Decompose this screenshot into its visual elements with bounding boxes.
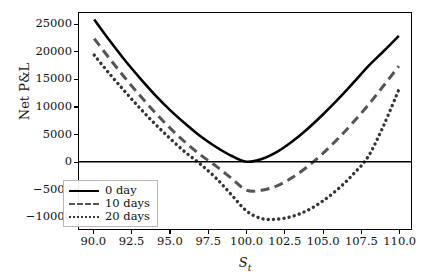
legend-label-0-day: 0 day (105, 185, 137, 197)
x-tick-mark (361, 230, 362, 234)
legend-label-20-days: 20 days (105, 211, 150, 223)
x-tick-mark (131, 230, 132, 234)
x-tick-label: 95.0 (157, 236, 183, 248)
y-tick-label: 15000 (35, 73, 72, 85)
y-tick-label: 0 (65, 156, 72, 168)
x-tick-mark (169, 230, 170, 234)
x-axis-label: St (78, 255, 412, 273)
legend-line-dashed-icon (69, 199, 99, 209)
x-tick-label: 90.0 (81, 236, 107, 248)
x-tick-label: 102.5 (268, 236, 301, 248)
x-tick-mark (399, 230, 400, 234)
x-tick-mark (284, 230, 285, 234)
y-axis-label: Net P&L (17, 50, 32, 134)
y-tick-label: 5000 (43, 129, 72, 141)
legend-line-dotted-icon (69, 212, 99, 222)
x-tick-label: 97.5 (195, 236, 221, 248)
x-tick-label: 92.5 (119, 236, 145, 248)
net-pl-payoff-chart: Net P&L 2500020000150001000050000−5000−1… (0, 0, 425, 278)
legend: 0 day 10 days 20 days (63, 180, 158, 227)
x-tick-label: 110.0 (383, 236, 416, 248)
x-axis-label-subscript: t (248, 263, 252, 273)
x-tick-mark (93, 230, 94, 234)
x-tick-mark (208, 230, 209, 234)
series-line-10-days (94, 39, 399, 192)
series-line-0-day (94, 20, 399, 162)
legend-line-solid-icon (69, 186, 99, 196)
y-tick-label: 20000 (35, 46, 72, 58)
x-tick-label: 105.0 (307, 236, 340, 248)
x-tick-label: 100.0 (230, 236, 263, 248)
legend-item-20-days: 20 days (69, 210, 150, 223)
x-tick-label: 107.5 (345, 236, 378, 248)
y-tick-label: 25000 (35, 18, 72, 30)
x-tick-mark (323, 230, 324, 234)
x-tick-mark (246, 230, 247, 234)
x-axis-label-base: S (239, 255, 248, 270)
y-tick-label: 10000 (35, 101, 72, 113)
legend-label-10-days: 10 days (105, 198, 150, 210)
